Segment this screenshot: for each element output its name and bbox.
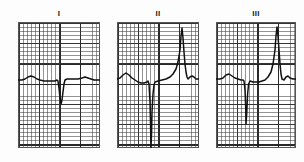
lead-label-i: I	[18, 9, 100, 19]
lead-panel-i: I	[18, 9, 100, 148]
ecg-waveform-path-iii	[216, 27, 296, 124]
lead-label-iii: III	[216, 9, 296, 19]
lead-label-ii: II	[117, 9, 199, 19]
lead-panel-ii: II	[117, 9, 199, 148]
ecg-waveform-path-ii	[117, 28, 199, 148]
ecg-sheet: I II III	[0, 0, 304, 162]
ecg-trace-i	[18, 22, 100, 148]
lead-panel-iii: III	[216, 9, 296, 148]
ecg-waveform-path-i	[18, 76, 100, 104]
ecg-trace-iii	[216, 22, 296, 148]
ecg-trace-ii	[117, 22, 199, 148]
